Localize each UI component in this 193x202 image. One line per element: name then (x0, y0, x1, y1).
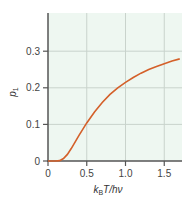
y-tick-label: 0.3 (26, 46, 40, 57)
y-tick-label: 0 (34, 156, 40, 167)
y-axis-label: p1 (7, 87, 19, 98)
plot-background (48, 13, 182, 161)
y-tick-label: 0.1 (26, 119, 40, 130)
x-axis-label: kBT/hν (93, 184, 122, 196)
y-tick-label: 0.2 (26, 82, 40, 93)
x-tick-label: 0 (45, 168, 51, 179)
x-tick-label: 1.5 (157, 168, 171, 179)
x-tick-label: 0.5 (80, 168, 94, 179)
chart-svg: 00.51.01.500.10.20.3 p1 kBT/hν (0, 0, 193, 202)
x-tick-label: 1.0 (119, 168, 133, 179)
